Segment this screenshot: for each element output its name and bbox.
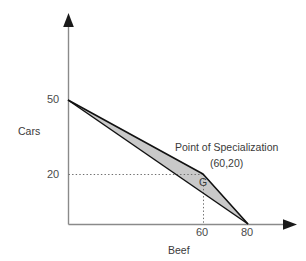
- y-tick-label-20: 20: [47, 169, 59, 180]
- x-axis-arrow-icon: [283, 219, 297, 230]
- x-tick-label-60: 60: [196, 227, 208, 238]
- y-axis-title: Cars: [18, 126, 40, 137]
- y-axis-arrow-icon: [63, 13, 74, 27]
- point-coordinates-label: (60,20): [210, 158, 243, 169]
- point-of-specialization-label: Point of Specialization: [175, 142, 278, 153]
- x-tick-label-80: 80: [241, 227, 253, 238]
- ppf-chart: 50 20 60 80 Cars Beef Point of Specializ…: [0, 0, 306, 261]
- x-axis-title: Beef: [168, 245, 190, 256]
- y-tick-label-50: 50: [47, 94, 59, 105]
- point-marker-label: G: [199, 177, 207, 188]
- chart-canvas: [0, 0, 306, 261]
